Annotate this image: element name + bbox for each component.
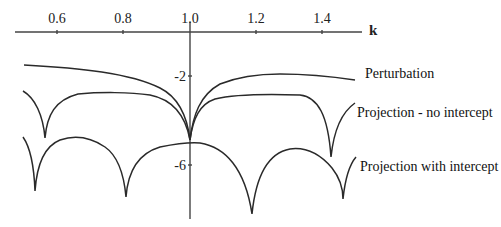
x-tick-label-0.8: 0.8: [114, 11, 132, 26]
y-tick-label-minus-2: -2: [174, 69, 186, 84]
x-tick-label-0.6: 0.6: [48, 11, 66, 26]
x-axis-label: k: [369, 22, 378, 38]
series-projection-no-intercept-curve: [23, 91, 355, 157]
label-perturbation: Perturbation: [365, 66, 434, 81]
y-tick-label-minus-6: -6: [174, 158, 186, 173]
chart-canvas: 0.6 0.8 1.0 1.2 1.4 k -2 -6 Perturbation…: [0, 0, 501, 227]
x-tick-label-1.0: 1.0: [181, 11, 199, 26]
x-tick-label-1.4: 1.4: [313, 11, 331, 26]
label-projection-no-intercept: Projection - no intercept: [357, 105, 493, 120]
x-tick-label-1.2: 1.2: [247, 11, 265, 26]
label-projection-with-intercept: Projection with intercept: [360, 159, 499, 174]
